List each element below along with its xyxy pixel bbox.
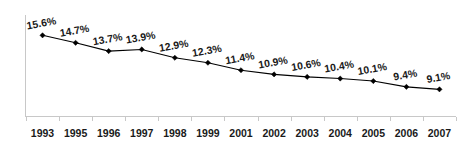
data-value-labels: 15.6%14.7%13.7%13.9%12.9%12.3%11.4%10.9%… (26, 14, 452, 85)
data-point (139, 47, 144, 52)
data-value-label: 10.1% (356, 60, 388, 77)
chart-canvas: 15.6%14.7%13.7%13.9%12.9%12.3%11.4%10.9%… (0, 0, 463, 148)
data-value-label: 11.4% (224, 49, 255, 66)
data-point (172, 55, 177, 60)
data-point (371, 78, 376, 83)
data-value-label: 9.1% (425, 69, 451, 85)
data-value-label: 10.6% (290, 56, 322, 73)
data-point (437, 87, 442, 92)
data-point (73, 40, 78, 45)
data-point (404, 84, 409, 89)
x-axis-label: 2007 (428, 127, 452, 139)
data-value-label: 10.9% (257, 53, 289, 70)
data-value-label: 15.6% (26, 14, 58, 31)
x-axis-ticks (27, 117, 457, 121)
x-axis-label: 1999 (196, 127, 220, 139)
data-value-label: 10.4% (323, 57, 355, 74)
data-value-label: 14.7% (59, 22, 91, 39)
x-axis-label: 2002 (262, 127, 286, 139)
x-axis-label: 2004 (329, 127, 353, 139)
x-axis-label: 1998 (163, 127, 187, 139)
x-axis-label: 2001 (229, 127, 253, 139)
x-axis-tick-labels: 1993199519961997199819992001200220032004… (31, 127, 451, 139)
data-value-label: 9.4% (392, 66, 418, 82)
data-point (238, 68, 243, 73)
x-axis-label: 2003 (295, 127, 319, 139)
data-point (338, 76, 343, 81)
x-axis-label: 1997 (130, 127, 154, 139)
data-point (205, 60, 210, 65)
data-point (271, 72, 276, 77)
data-value-label: 13.9% (125, 28, 157, 45)
x-axis-label: 2005 (362, 127, 386, 139)
x-axis-label: 1993 (31, 127, 55, 139)
data-value-label: 12.9% (158, 37, 190, 54)
data-point (40, 33, 45, 38)
data-value-label: 12.3% (191, 42, 223, 59)
x-axis-label: 1995 (64, 127, 88, 139)
line-chart: 15.6%14.7%13.7%13.9%12.9%12.3%11.4%10.9%… (0, 0, 463, 148)
x-axis-label: 1996 (97, 127, 121, 139)
data-point (106, 49, 111, 54)
data-value-label: 13.7% (92, 30, 124, 47)
data-point (305, 74, 310, 79)
x-axis-label: 2006 (395, 127, 419, 139)
